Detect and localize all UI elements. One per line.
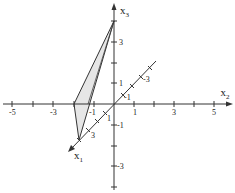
x2-tick-label: -3	[50, 108, 57, 117]
x2-axis-label: x2	[221, 86, 231, 101]
x3-tick-label: -3	[117, 162, 124, 171]
x2-tick-label: -5	[9, 108, 16, 117]
x3-tick-label: -1	[117, 121, 124, 130]
x2-tick-label: 5	[212, 108, 216, 117]
x3-tick-label: 3	[119, 38, 123, 47]
diagram-canvas: -5 -3 -1 1 3 5 3 1 -1 -3 1 3 -1 -3 x3 x2…	[0, 0, 235, 193]
x1-tick-label: 3	[91, 131, 95, 140]
x1-axis-label: x1	[74, 149, 84, 164]
triangle-edge	[88, 21, 114, 104]
x2-tick-label: 3	[172, 108, 176, 117]
x2-axis	[3, 101, 233, 107]
x2-tick-label: 1	[133, 108, 137, 117]
x1-tick-label: -1	[124, 93, 131, 102]
x2-tick-label: -1	[89, 108, 96, 117]
coordinate-diagram: -5 -3 -1 1 3 5 3 1 -1 -3 1 3 -1 -3 x3 x2…	[0, 0, 235, 193]
x1-tick-label: 1	[107, 114, 111, 123]
x3-axis-label: x3	[120, 4, 130, 19]
x1-tick-label: -3	[143, 75, 150, 84]
x3-tick-label: 1	[119, 79, 123, 88]
